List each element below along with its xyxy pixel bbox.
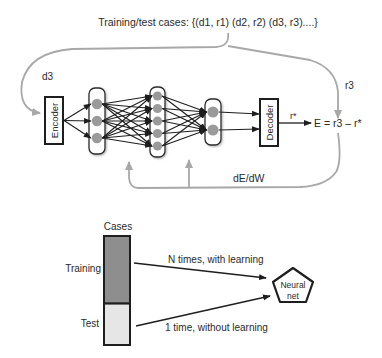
hidden-layer-node [153,141,162,150]
gradient-label: dE/dW [233,172,265,184]
decoder-label: Decoder [264,105,275,141]
output-layer-node [207,106,218,117]
hidden-layer-node [153,116,162,125]
cases-bar-title: Cases [104,221,132,232]
input-layer-node [92,99,102,109]
hidden-layer-node [153,104,162,113]
error-formula: E = r3 – r* [314,117,362,129]
test-label: Test [81,318,100,329]
encoder-connection [64,121,91,122]
cases-bar [104,236,130,345]
output-layer [205,99,221,145]
input-layer-node [92,133,102,143]
test-arrow-label: 1 time, without learning [165,322,268,333]
target-label: r3 [345,80,354,91]
input-label: d3 [42,71,54,82]
training-segment [104,236,130,304]
neural-net-label-2: net [287,291,299,301]
cases-title: Training/test cases: {(d1, r1) (d2, r2) … [98,16,318,28]
decoder-box: Decoder [260,99,278,146]
decoder-connection [219,112,259,114]
encoder-box: Encoder [45,97,63,144]
target-feed-arrow [228,46,338,118]
decoder-connection [219,129,259,130]
neural-net-pentagon: Neural net [273,268,313,302]
output-label: r* [290,111,297,121]
output-layer-node [207,124,218,135]
weight-connection [162,96,206,112]
encoder-label: Encoder [49,103,60,138]
diagram-canvas: Training/test cases: {(d1, r1) (d2, r2) … [0,0,382,358]
test-segment [104,304,130,345]
training-arrow [134,263,266,278]
encoder-connection [64,121,91,139]
hidden-layer-node [153,129,162,138]
neural-net-label-1: Neural [280,280,305,290]
weight-connection [162,130,206,146]
encoder-connection [64,104,91,121]
hidden-layer-node [153,91,162,100]
training-arrow-label: N times, with learning [168,254,264,265]
training-label: Training [65,263,101,274]
input-layer-node [92,116,102,126]
